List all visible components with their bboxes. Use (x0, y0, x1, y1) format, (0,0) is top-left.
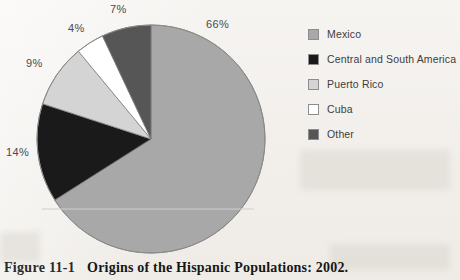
slice-label-puerto-rico: 9% (26, 57, 43, 69)
legend-label: Other (327, 128, 354, 141)
legend-label: Mexico (327, 28, 361, 41)
legend-swatch-icon (308, 54, 319, 65)
legend-swatch-icon (308, 79, 319, 90)
legend-item-other: Other (308, 128, 460, 141)
slice-label-cuba: 4% (68, 22, 85, 34)
figure-caption: Figure 11-1 Origins of the Hispanic Popu… (4, 260, 348, 276)
slice-label-mexico: 66% (206, 18, 229, 30)
figure-number: Figure 11-1 (4, 260, 75, 276)
scan-artifact (300, 150, 450, 190)
legend-label: Puerto Rico (327, 78, 384, 91)
legend-item-mexico: Mexico (308, 28, 460, 41)
legend-label: Cuba (327, 103, 353, 116)
legend-label: Central and South America (327, 53, 456, 66)
figure-container: 66% 14% 9% 4% 7% Mexico Central and Sout… (0, 0, 460, 280)
slice-label-central-and-south-america: 14% (6, 146, 29, 158)
legend-item-central-and-south-america: Central and South America (308, 53, 460, 66)
legend-swatch-icon (308, 129, 319, 140)
legend-swatch-icon (308, 29, 319, 40)
legend-item-puerto-rico: Puerto Rico (308, 78, 460, 91)
legend-swatch-icon (308, 104, 319, 115)
legend-item-cuba: Cuba (308, 103, 460, 116)
pie-chart: 66% 14% 9% 4% 7% (0, 0, 300, 258)
pie-chart-svg (0, 0, 300, 258)
slice-label-other: 7% (110, 3, 127, 15)
chart-legend: Mexico Central and South America Puerto … (308, 28, 460, 153)
figure-title: Origins of the Hispanic Populations: 200… (87, 260, 348, 276)
